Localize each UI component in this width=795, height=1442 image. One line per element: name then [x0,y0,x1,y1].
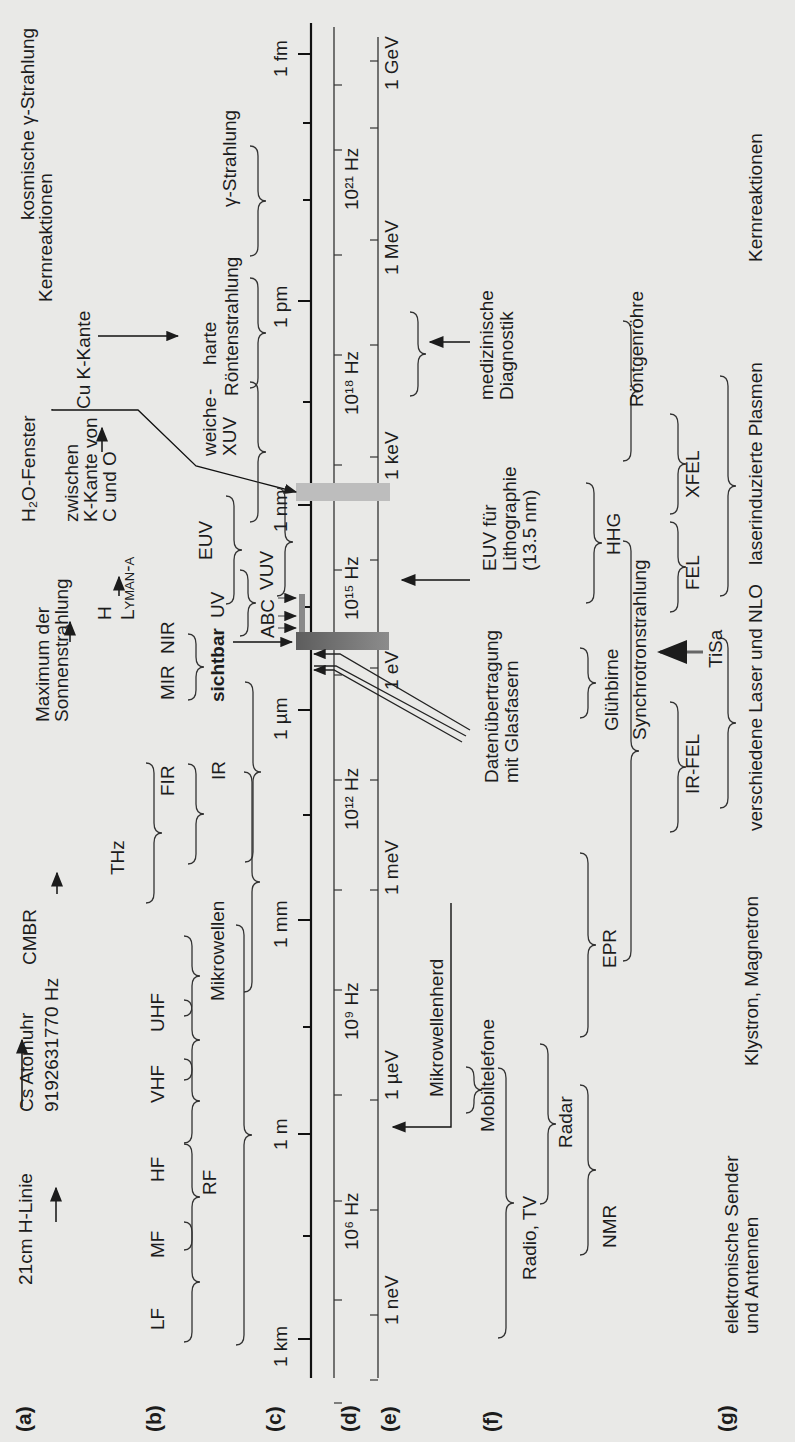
band-euv: EUV [196,521,216,560]
tick-1e6hz: 10⁶ Hz [342,1193,362,1250]
row-label-a: (a) [13,1406,35,1432]
band-lf: LF [148,1308,168,1330]
app-mobile: Mobiltelefone [478,1019,498,1132]
app-hhg: HHG [604,513,624,555]
app-epr: EPR [600,929,620,968]
row-label-f: (f) [480,1411,502,1432]
label-lyman-alpha: Lyman-α [118,557,138,620]
tick-1mev-big: 1 MeV [382,220,402,275]
tick-1um: 1 µm [271,697,291,740]
src-antennas-2: und Antennen [742,1217,762,1334]
tick-1mev: 1 meV [382,840,402,895]
label-h2o-window: H₂O-Fenster [19,415,39,522]
label-between-1: zwischen [62,444,82,522]
app-euv-litho-1: EUV für [480,504,500,571]
band-fir: FIR [158,765,178,796]
band-rf: RF [200,1170,220,1195]
tick-1e15hz: 10¹⁵ Hz [342,556,362,620]
band-xuv: XUV [220,417,240,456]
band-ir: IR [209,761,229,780]
band-vhf: VHF [148,1065,168,1103]
label-cu-k-edge: Cu K-Kante [74,311,94,409]
tick-1uev: 1 µeV [382,1050,402,1100]
app-nmr: NMR [600,1205,620,1248]
app-radar: Radar [556,1096,576,1148]
visible-band [296,632,389,650]
band-dash: - [200,389,220,395]
band-microwave: Mikrowellen [208,901,228,1001]
row-label-g: (g) [715,1405,737,1432]
tick-1e18hz: 10¹⁸ Hz [342,351,362,415]
tick-1nev: 1 neV [382,1275,402,1325]
band-mir: MIR [158,665,178,700]
tick-1mm: 1 mm [271,901,291,949]
band-visible: sichtbar [208,628,228,702]
tick-1pm: 1 pm [271,286,291,328]
src-synchrotron: Synchrotronstrahlung [630,559,650,740]
src-xray-tube: Röntgenröhre [627,291,647,407]
band-uv-abc: ABC [258,599,278,638]
app-fiber-2: mit Glasfasern [502,661,522,783]
uv-strip [299,594,305,632]
label-21cm: 21cm H-Linie [16,1173,36,1285]
tick-1kev: 1 keV [382,431,402,480]
app-euv-litho-3: (13.5 nm) [520,490,540,571]
band-xray: Röntenstrahlung [222,257,242,396]
app-fiber-1: Datenübertragung [482,630,502,783]
label-between-2: K-Kante von [81,417,101,522]
row-label-d: (d) [338,1405,360,1432]
band-gamma: γ-Strahlung [220,110,240,207]
label-nuclear-a: Kernreaktionen [36,173,56,302]
src-xfel: XFEL [683,450,703,498]
band-vuv: VUV [257,551,277,590]
tick-1km: 1 km [271,1326,291,1367]
src-laser-plasma: laserinduzierte Plasmen [746,362,766,565]
label-sun-max-2: Sonnenstrahlung [52,578,72,722]
label-cosmic-gamma: kosmische γ-Strahlung [18,28,38,220]
src-antennas-1: elektronische Sender [722,1156,742,1335]
src-nuclear-g: Kernreaktionen [746,133,766,262]
tick-1e12hz: 10¹² Hz [342,768,362,830]
src-lasers-nlo: verschiedene Laser und NLO [746,584,766,831]
label-h: H [95,606,115,620]
row-label-b: (b) [143,1405,165,1432]
band-thz: THz [108,840,128,875]
src-ir-fel: IR-FEL [683,734,703,794]
src-fel: FEL [683,555,703,590]
band-mf: MF [148,1231,168,1258]
band-soft: weiche [200,397,220,456]
label-sun-max-1: Maximum der [33,607,53,722]
tick-1nm: 1 nm [271,490,291,532]
app-med-diag-1: medizinische [477,290,497,400]
label-cs-clock: Cs Atomuhr [17,1013,37,1112]
app-med-diag-2: Diagnostik [497,311,517,400]
diagram-lines [0,0,795,1442]
tick-1gev: 1 GeV [382,36,402,90]
band-uhf: UHF [148,993,168,1032]
label-cs-freq: 9192631770 Hz [42,978,62,1112]
tick-1m: 1 m [271,1118,291,1150]
app-microwave-oven: Mikrowellenherd [427,959,447,1097]
tick-1ev: 1 eV [382,651,402,690]
band-uv: UV [208,592,228,618]
tick-1fm: 1 fm [271,40,291,77]
app-euv-litho-2: Lithographie [500,466,520,571]
label-cmbr: CMBR [20,909,40,965]
band-hf: HF [148,1157,168,1182]
band-nir: NIR [158,621,178,654]
band-hard: harte [200,322,220,365]
tick-1e21hz: 10²¹ Hz [342,148,362,210]
row-label-c: (c) [263,1406,285,1432]
spectrum-diagram: (a) (b) (c) (d) (e) (f) (g) 21cm H-Linie… [0,0,795,1442]
app-radio-tv: Radio, TV [520,1196,540,1280]
src-klystron: Klystron, Magnetron [742,896,762,1066]
label-between-3: C und O [100,451,120,522]
app-bulb: Glühbirne [602,649,622,731]
water-window-band [296,483,390,501]
row-label-e: (e) [378,1406,400,1432]
src-tisa: TiSa [706,630,726,668]
tick-1e9hz: 10⁹ Hz [342,982,362,1040]
